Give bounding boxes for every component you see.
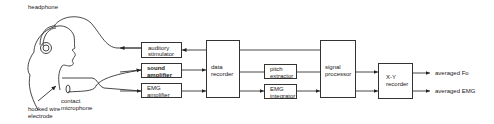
xy-recorder-label: X-Y recorder xyxy=(386,74,408,87)
emg-integrator-label: EMG integrator xyxy=(270,86,295,99)
signal-processor-block: signal processor xyxy=(320,40,356,98)
signal-processor-label: signal processor xyxy=(325,64,351,77)
pitch-extractor-label: pitch extractor xyxy=(270,66,293,79)
sound-amplifier-label: sound amplifier xyxy=(147,65,172,78)
pitch-extractor-block: pitch extractor xyxy=(264,64,297,79)
averaged-emg-output: averaged EMG xyxy=(435,88,475,95)
emg-amplifier-label: EMG amplifier xyxy=(147,85,170,98)
auditory-stimulator-block: auditory stimulator xyxy=(141,42,182,58)
averaged-fo-output: averaged Fo xyxy=(435,70,469,77)
data-recorder-block: data recorder xyxy=(206,40,240,98)
headphone-label: headphone xyxy=(28,4,58,11)
sound-amplifier-block: sound amplifier xyxy=(141,63,182,78)
hooked-wire-electrode-label: hooked wire electrode xyxy=(28,106,60,119)
contact-microphone-label: contact microphone xyxy=(61,98,92,111)
auditory-stimulator-label: auditory stimulator xyxy=(148,45,174,58)
emg-amplifier-block: EMG amplifier xyxy=(141,83,182,98)
data-recorder-label: data recorder xyxy=(211,64,233,77)
xy-recorder-block: X-Y recorder xyxy=(378,63,413,99)
emg-integrator-block: EMG integrator xyxy=(264,84,297,99)
